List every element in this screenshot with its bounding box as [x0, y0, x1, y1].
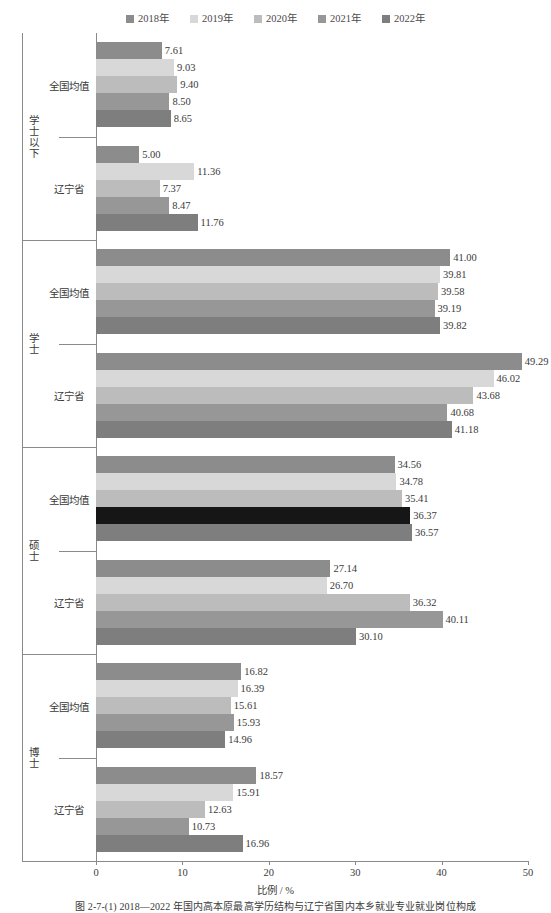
bar	[96, 818, 189, 835]
bar	[96, 680, 238, 697]
bar-value-label: 16.96	[243, 835, 270, 852]
group-axis-label: 硕士	[22, 447, 44, 654]
bar-value-label: 7.37	[160, 180, 181, 197]
bar-value-label: 36.32	[410, 594, 437, 611]
bar	[96, 507, 410, 524]
subgroup-axis-label: 辽宁省	[42, 388, 96, 403]
bar-value-label: 46.02	[494, 370, 521, 387]
bar	[96, 524, 412, 541]
legend-item[interactable]: 2021年	[318, 14, 361, 25]
bar	[96, 835, 243, 852]
bar	[96, 456, 395, 473]
group-axis-label: 学士	[22, 240, 44, 447]
bar	[96, 663, 241, 680]
legend-swatch-icon	[254, 15, 262, 23]
subgroup-divider	[59, 137, 96, 138]
bar-value-label: 41.00	[450, 249, 477, 266]
bar-value-label: 11.76	[198, 214, 224, 231]
legend-label: 2020年	[266, 14, 297, 25]
legend-swatch-icon	[126, 15, 134, 23]
bar	[96, 93, 169, 110]
x-axis-tick-label: 0	[84, 867, 108, 878]
bar	[96, 197, 169, 214]
bar	[96, 628, 356, 645]
legend-swatch-icon	[190, 15, 198, 23]
bar	[96, 180, 160, 197]
x-axis-tick	[355, 861, 356, 865]
bar-value-label: 36.57	[412, 524, 439, 541]
legend-swatch-icon	[318, 15, 326, 23]
bar	[96, 767, 256, 784]
legend-label: 2021年	[330, 14, 361, 25]
bar-value-label: 8.65	[171, 110, 192, 127]
bar-value-label: 11.36	[194, 163, 220, 180]
bar-value-label: 15.61	[231, 697, 258, 714]
group-axis-label: 博士	[22, 654, 44, 861]
bar	[96, 59, 174, 76]
subgroup-divider	[59, 551, 96, 552]
bar-value-label: 27.14	[330, 560, 357, 577]
legend-label: 2018年	[138, 14, 169, 25]
subgroup-divider	[59, 758, 96, 759]
bar-value-label: 35.41	[402, 490, 429, 507]
bar	[96, 42, 162, 59]
x-axis-tick	[96, 861, 97, 865]
bar-value-label: 16.39	[238, 680, 265, 697]
bar	[96, 353, 522, 370]
bar-value-label: 39.82	[440, 317, 467, 334]
bar	[96, 801, 205, 818]
bar	[96, 214, 198, 231]
bar-value-label: 7.61	[162, 42, 183, 59]
legend-swatch-icon	[382, 15, 390, 23]
subgroup-axis-label: 全国均值	[42, 699, 96, 714]
x-axis-title: 比例 / %	[22, 882, 529, 897]
bar-value-label: 41.18	[452, 421, 479, 438]
bar-value-label: 49.29	[522, 353, 549, 370]
bar-value-label: 39.19	[435, 300, 462, 317]
bar-value-label: 26.70	[327, 577, 354, 594]
x-axis-tick-label: 50	[516, 867, 540, 878]
x-axis-tick	[442, 861, 443, 865]
bar-value-label: 8.50	[169, 93, 190, 110]
x-axis-line	[22, 861, 529, 862]
legend-item[interactable]: 2022年	[382, 14, 425, 25]
legend-item[interactable]: 2019年	[190, 14, 233, 25]
x-axis-tick-label: 40	[430, 867, 454, 878]
bar	[96, 714, 234, 731]
bar	[96, 404, 447, 421]
figure-caption: 图 2-7-(1) 2018—2022 年国内高本原最高学历结构与辽宁省国内本乡…	[0, 898, 551, 913]
subgroup-axis-label: 全国均值	[42, 285, 96, 300]
legend-item[interactable]: 2020年	[254, 14, 297, 25]
bar	[96, 76, 177, 93]
bar-value-label: 30.10	[356, 628, 383, 645]
bar	[96, 560, 330, 577]
chart-legend: 2018年2019年2020年2021年2022年	[0, 14, 551, 25]
bar-value-label: 8.47	[169, 197, 190, 214]
bar-value-label: 9.40	[177, 76, 198, 93]
legend-item[interactable]: 2018年	[126, 14, 169, 25]
bar	[96, 731, 225, 748]
bar	[96, 421, 452, 438]
bar	[96, 317, 440, 334]
group-axis-label: 学士以下	[22, 33, 44, 240]
bar	[96, 370, 494, 387]
bar-value-label: 34.78	[396, 473, 423, 490]
bar-value-label: 10.73	[189, 818, 216, 835]
bar-value-label: 12.63	[205, 801, 232, 818]
bar	[96, 784, 233, 801]
bar-value-label: 14.96	[225, 731, 252, 748]
x-axis-tick	[182, 861, 183, 865]
subgroup-axis-label: 辽宁省	[42, 181, 96, 196]
subgroup-axis-label: 辽宁省	[42, 802, 96, 817]
bar-value-label: 40.11	[443, 611, 469, 628]
bar	[96, 146, 139, 163]
subgroup-axis-label: 全国均值	[42, 492, 96, 507]
x-axis-tick	[528, 861, 529, 865]
subgroup-axis-label: 辽宁省	[42, 595, 96, 610]
bar	[96, 594, 410, 611]
bar	[96, 163, 194, 180]
legend-label: 2019年	[202, 14, 233, 25]
legend-label: 2022年	[394, 14, 425, 25]
bar	[96, 110, 171, 127]
bar-value-label: 15.91	[233, 784, 260, 801]
